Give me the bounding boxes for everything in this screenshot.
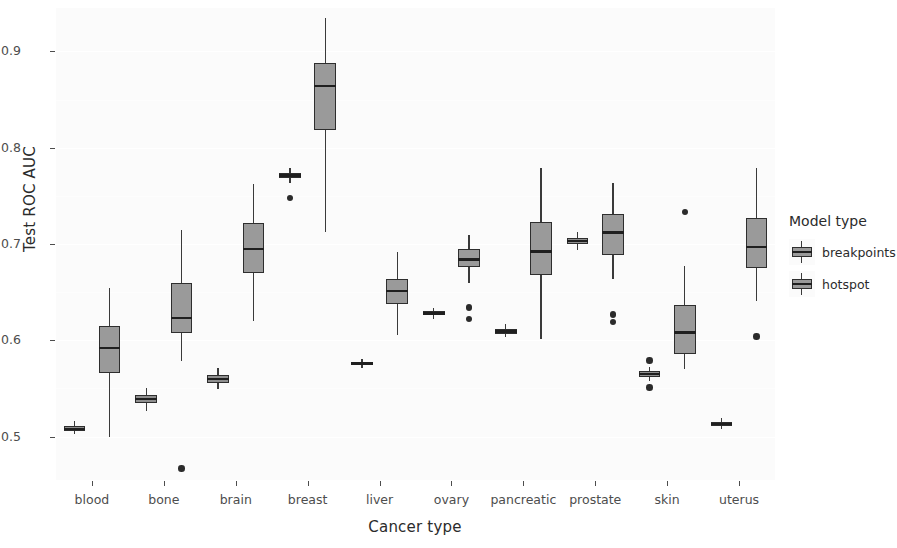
- outlier-point: [646, 357, 653, 364]
- median: [386, 290, 408, 293]
- median: [207, 378, 229, 381]
- median: [495, 330, 517, 333]
- median: [423, 312, 445, 315]
- y-tick-mark: [50, 51, 55, 52]
- y-tick-mark: [50, 340, 55, 341]
- x-tick-mark: [380, 481, 381, 486]
- outlier-point: [610, 311, 617, 318]
- y-axis-title: Test ROC AUC: [21, 99, 39, 299]
- x-axis-title: Cancer type: [55, 518, 775, 536]
- median: [351, 362, 373, 365]
- median: [314, 85, 336, 88]
- median: [171, 317, 193, 320]
- gridline-minor: [56, 196, 775, 197]
- outlier-point: [753, 333, 760, 340]
- median: [602, 231, 624, 234]
- x-tick-mark: [236, 481, 237, 486]
- y-tick-label: 0.6: [0, 332, 21, 347]
- legend-label: breakpoints: [822, 245, 896, 260]
- box: [746, 218, 768, 268]
- gridline-major: [56, 244, 775, 245]
- median: [135, 398, 157, 401]
- legend-key-icon: [789, 239, 815, 265]
- legend-label: hotspot: [822, 277, 869, 292]
- gridline-major: [56, 340, 775, 341]
- y-tick-mark: [50, 244, 55, 245]
- legend: Model type breakpointshotspot: [789, 213, 897, 303]
- median: [99, 347, 121, 350]
- median: [279, 174, 301, 177]
- box: [602, 214, 624, 254]
- y-tick-mark: [50, 148, 55, 149]
- box: [99, 326, 121, 373]
- x-tick-mark: [308, 481, 309, 486]
- x-tick-mark: [451, 481, 452, 486]
- box: [171, 283, 193, 332]
- median: [746, 246, 768, 249]
- x-tick-mark: [595, 481, 596, 486]
- legend-title: Model type: [789, 213, 897, 229]
- gridline-minor: [56, 388, 775, 389]
- gridline-major: [56, 51, 775, 52]
- median: [674, 331, 696, 334]
- y-tick-label: 0.5: [0, 429, 21, 444]
- median: [567, 240, 589, 243]
- gridline-minor: [56, 100, 775, 101]
- box: [314, 63, 336, 130]
- legend-item-hotspot[interactable]: hotspot: [789, 271, 897, 297]
- plot-panel: [56, 8, 775, 480]
- outlier-point: [466, 304, 473, 311]
- x-tick-mark: [164, 481, 165, 486]
- x-tick-mark: [667, 481, 668, 486]
- x-tick-mark: [523, 481, 524, 486]
- box: [674, 305, 696, 354]
- legend-items: breakpointshotspot: [789, 239, 897, 297]
- median: [243, 248, 265, 251]
- y-tick-label: 0.7: [0, 236, 21, 251]
- box: [530, 222, 552, 275]
- legend-item-breakpoints[interactable]: breakpoints: [789, 239, 897, 265]
- legend-key-icon: [789, 271, 815, 297]
- outlier-point: [178, 465, 185, 472]
- gridline-major: [56, 437, 775, 438]
- median: [639, 373, 661, 376]
- x-tick-mark: [739, 481, 740, 486]
- median: [64, 428, 86, 431]
- boxplot-figure: Test ROC AUC Cancer type 0.50.60.70.80.9…: [0, 0, 897, 548]
- median: [530, 250, 552, 253]
- median: [458, 258, 480, 261]
- x-tick-label-uterus: uterus: [689, 492, 789, 507]
- y-tick-label: 0.9: [0, 43, 21, 58]
- outlier-point: [646, 384, 653, 391]
- gridline-minor: [56, 292, 775, 293]
- gridline-major: [56, 148, 775, 149]
- median: [711, 423, 733, 426]
- y-tick-mark: [50, 437, 55, 438]
- y-tick-label: 0.8: [0, 140, 21, 155]
- x-tick-mark: [92, 481, 93, 486]
